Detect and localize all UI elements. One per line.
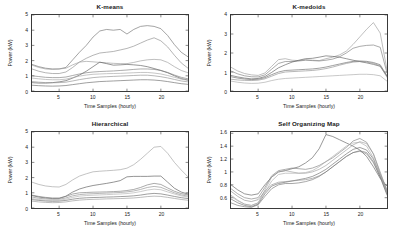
x-tick-label: 20 [358,94,364,100]
x-tick-label: 20 [159,94,165,100]
series-line [231,138,387,199]
x-tick-label: 10 [90,94,96,100]
y-tick-label: 0 [13,206,28,212]
y-tick-label: 0 [13,89,28,95]
y-tick-label: 0.6 [212,195,227,201]
series-line [231,62,387,81]
x-tick-label: 20 [159,211,165,217]
panel-title: K-means [31,3,189,10]
x-tick-label: 10 [289,211,295,217]
y-tick-label: 1.2 [212,156,227,162]
x-axis-label: Time Samples (hourly) [230,220,388,226]
y-tick-label: 3 [212,31,227,37]
panel-self-organizing-map: Self Organizing Map0.60.811.21.41.651015… [199,117,399,235]
panel-hierarchical: Hierarchical0123455101520Time Samples (h… [0,117,200,235]
x-tick-label: 5 [256,94,259,100]
x-axis-label: Time Samples (hourly) [31,103,189,109]
series-line [231,23,387,76]
y-tick-label: 1 [13,73,28,79]
series-line [231,147,387,206]
x-tick-label: 15 [124,94,130,100]
plot-area [230,131,388,209]
series-line [32,176,188,198]
y-tick-label: 5 [13,11,28,17]
plot-area [31,131,189,209]
series-line [32,146,188,187]
plot-area [31,14,189,92]
x-tick-label: 5 [256,211,259,217]
y-tick-label: 0.8 [212,182,227,188]
panel-k-medoids: K-medoids012345101520Time Samples (hourl… [199,0,399,118]
series-line [32,75,188,83]
panel-title: Self Organizing Map [230,120,388,127]
y-tick-label: 2 [212,50,227,56]
y-axis-label: Power (kW) [206,156,212,183]
y-axis-label: Power (kW) [7,39,13,66]
x-tick-label: 15 [323,94,329,100]
series-line [32,26,188,69]
y-tick-label: 2 [13,175,28,181]
x-tick-label: 5 [57,211,60,217]
series-line [231,135,387,196]
x-tick-label: 15 [323,211,329,217]
x-axis-label: Time Samples (hourly) [230,103,388,109]
figure-canvas: K-means0123455101520Time Samples (hourly… [0,0,399,235]
series-line [231,151,387,201]
x-tick-label: 5 [57,94,60,100]
x-tick-label: 15 [124,211,130,217]
y-tick-label: 3 [13,159,28,165]
x-axis-label: Time Samples (hourly) [31,220,189,226]
y-tick-label: 0 [212,89,227,95]
panel-title: Hierarchical [31,120,189,127]
y-tick-label: 4 [212,11,227,17]
y-tick-label: 1.4 [212,143,227,149]
x-tick-label: 10 [90,211,96,217]
y-tick-label: 4 [13,144,28,150]
y-tick-label: 2 [13,58,28,64]
y-tick-label: 1.6 [212,129,227,135]
series-line [32,38,188,74]
y-tick-label: 1 [212,70,227,76]
y-axis-label: Power (kW) [7,156,13,183]
panel-title: K-medoids [230,3,388,10]
series-line [32,186,188,199]
y-axis-label: Power (kW) [206,39,212,66]
plot-area [230,14,388,92]
y-tick-label: 1 [13,190,28,196]
y-tick-label: 3 [13,42,28,48]
y-tick-label: 1 [212,169,227,175]
panel-k-means: K-means0123455101520Time Samples (hourly… [0,0,200,118]
y-tick-label: 4 [13,27,28,33]
x-tick-label: 20 [358,211,364,217]
series-line [231,142,387,206]
series-line [32,59,188,72]
y-tick-label: 5 [13,128,28,134]
x-tick-label: 10 [289,94,295,100]
